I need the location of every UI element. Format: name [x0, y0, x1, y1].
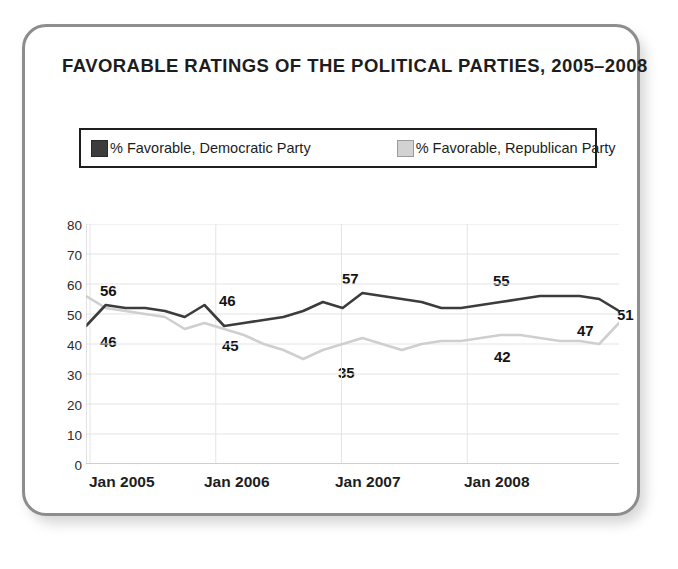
- y-tick-10: 10: [48, 428, 82, 443]
- label-dem-end: 51: [617, 306, 634, 323]
- y-tick-20: 20: [48, 398, 82, 413]
- plot-area: [86, 224, 619, 464]
- chart-legend: % Favorable, Democratic Party % Favorabl…: [79, 128, 597, 168]
- y-tick-30: 30: [48, 368, 82, 383]
- y-tick-0: 0: [48, 458, 82, 473]
- x-tick-jan-2006: Jan 2006: [204, 473, 270, 491]
- dark-gray-swatch-icon: [91, 140, 108, 157]
- chart-plot-svg: [86, 224, 619, 464]
- x-tick-jan-2008: Jan 2008: [464, 473, 530, 491]
- series-lines: [86, 293, 619, 359]
- legend-label-republican: % Favorable, Republican Party: [416, 140, 616, 156]
- y-tick-60: 60: [48, 278, 82, 293]
- gridlines: [86, 224, 619, 464]
- x-tick-jan-2005: Jan 2005: [89, 473, 155, 491]
- chart-figure: FAVORABLE RATINGS OF THE POLITICAL PARTI…: [0, 0, 678, 569]
- light-gray-swatch-icon: [397, 140, 414, 157]
- y-tick-70: 70: [48, 248, 82, 263]
- y-tick-80: 80: [48, 218, 82, 233]
- y-tick-40: 40: [48, 338, 82, 353]
- chart-title: FAVORABLE RATINGS OF THE POLITICAL PARTI…: [62, 55, 648, 77]
- y-tick-50: 50: [48, 308, 82, 323]
- x-tick-jan-2007: Jan 2007: [335, 473, 401, 491]
- legend-label-democratic: % Favorable, Democratic Party: [110, 140, 311, 156]
- legend-item-democratic: % Favorable, Democratic Party: [91, 140, 311, 157]
- legend-item-republican: % Favorable, Republican Party: [397, 140, 616, 157]
